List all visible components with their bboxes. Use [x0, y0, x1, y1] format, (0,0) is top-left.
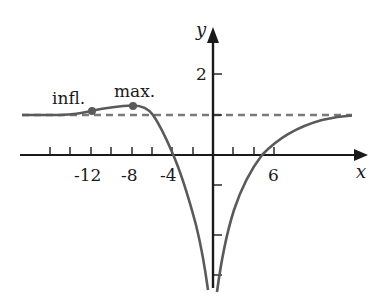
x-tick-label-neg8: -8 — [121, 165, 138, 185]
inflection-point — [88, 107, 96, 115]
y-tick-label-2: 2 — [196, 64, 207, 84]
chart-canvas: infl. max. -12 -8 -4 6 2 x y — [0, 0, 382, 306]
x-tick-label-neg4: -4 — [160, 165, 177, 185]
curve-left-branch — [22, 106, 208, 291]
maximum-point — [129, 102, 137, 110]
curve-right-branch — [217, 116, 352, 293]
x-axis-label: x — [356, 161, 366, 182]
y-ticks — [213, 74, 222, 275]
max-label: max. — [114, 81, 155, 101]
x-ticks — [50, 147, 274, 155]
infl-label: infl. — [52, 88, 85, 108]
y-axis-arrow-icon — [207, 27, 219, 43]
y-axis-label: y — [195, 19, 207, 40]
x-axis-arrow-icon — [354, 149, 368, 161]
x-tick-label-neg12: -12 — [74, 165, 101, 185]
x-tick-label-6: 6 — [268, 165, 279, 185]
